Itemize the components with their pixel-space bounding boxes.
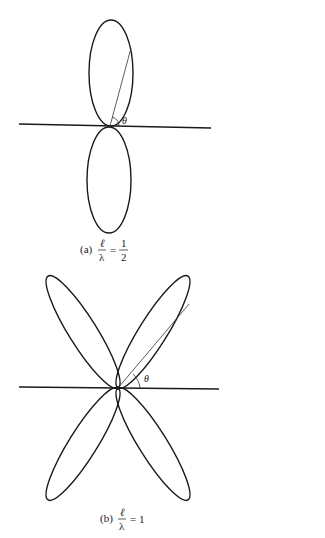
panel-b: θ (b) ℓ λ = 1: [19, 269, 219, 532]
caption-a-ratio-den: λ: [99, 251, 105, 263]
caption-b-ratio-num: ℓ: [120, 506, 125, 518]
panel-a: θ (a) ℓ λ = 1 2: [19, 20, 211, 263]
lobe-lower-a: [87, 127, 131, 233]
caption-b-label: (b): [100, 512, 113, 525]
lobe-lower-right-b: [106, 381, 200, 508]
lobe-upper-right-b: [106, 269, 200, 396]
lobe-upper-a: [89, 20, 133, 126]
radius-vector-a: [110, 48, 131, 126]
lobe-upper-left-b: [36, 269, 130, 396]
caption-a-label: (a): [80, 243, 93, 256]
caption-a-value-num: 1: [121, 237, 127, 249]
radiation-pattern-figure: θ (a) ℓ λ = 1 2 θ (b) ℓ λ =: [0, 0, 325, 538]
caption-b-equals: = 1: [130, 513, 144, 525]
caption-a-equals: =: [110, 244, 116, 256]
theta-label-b: θ: [144, 373, 149, 384]
caption-a-ratio-num: ℓ: [100, 237, 105, 249]
caption-b: (b) ℓ λ = 1: [100, 506, 144, 532]
caption-a-value-den: 2: [121, 251, 127, 263]
theta-label-a: θ: [122, 115, 127, 126]
caption-b-ratio-den: λ: [119, 520, 125, 532]
lobe-lower-left-b: [36, 381, 130, 508]
caption-a: (a) ℓ λ = 1 2: [80, 237, 128, 263]
